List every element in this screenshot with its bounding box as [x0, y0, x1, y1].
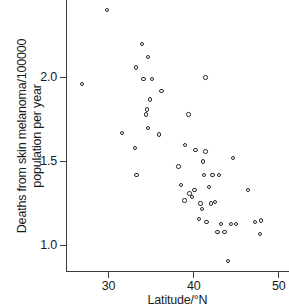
x-axis-line: [66, 271, 289, 272]
data-point: [210, 173, 214, 177]
data-point: [258, 232, 262, 236]
data-point: [253, 220, 257, 224]
data-point: [229, 222, 233, 226]
data-point: [193, 148, 197, 152]
data-point: [204, 220, 208, 224]
x-tick-label: 50: [262, 280, 289, 293]
y-axis-line: [66, 0, 67, 272]
data-point: [197, 217, 201, 221]
data-point: [215, 230, 219, 234]
data-point: [186, 112, 190, 116]
y-tick-mark: [60, 245, 66, 246]
data-point: [201, 159, 205, 163]
data-point: [176, 164, 180, 168]
data-point: [159, 89, 163, 93]
data-point: [144, 112, 148, 116]
data-point: [148, 97, 152, 101]
data-point: [146, 126, 150, 130]
data-point: [203, 75, 207, 79]
data-point: [222, 230, 226, 234]
data-point: [213, 200, 217, 204]
x-tick-mark: [278, 272, 279, 278]
data-point: [246, 188, 250, 192]
y-tick-mark: [60, 77, 66, 78]
x-axis-title: Latitude/°N: [66, 294, 289, 307]
data-point: [219, 222, 223, 226]
data-point: [183, 143, 187, 147]
y-axis-title: Deaths from skin melanoma/100000 populat…: [0, 0, 58, 272]
x-tick-label: 40: [177, 280, 211, 293]
y-axis-title-line-1: Deaths from skin melanoma/100000: [15, 39, 30, 233]
y-axis-title-line-2: population per year: [29, 39, 44, 233]
data-point: [217, 173, 221, 177]
data-point: [105, 8, 109, 12]
data-point: [200, 207, 204, 211]
data-point: [145, 107, 149, 111]
x-tick-label: 30: [92, 280, 126, 293]
data-point: [182, 198, 186, 202]
data-point: [120, 131, 124, 135]
y-tick-mark: [60, 161, 66, 162]
data-point: [190, 195, 194, 199]
data-point: [133, 146, 137, 150]
data-point: [198, 201, 202, 205]
data-point: [179, 183, 183, 187]
data-point: [231, 156, 235, 160]
data-point: [146, 55, 150, 59]
data-point: [140, 42, 144, 46]
data-point: [80, 82, 84, 86]
data-point: [141, 77, 145, 81]
scatter-plot-figure: 1.01.52.0 304050 Deaths from skin melano…: [0, 0, 289, 308]
data-point: [207, 185, 211, 189]
data-point: [150, 77, 154, 81]
data-point: [192, 188, 196, 192]
data-point: [259, 218, 263, 222]
x-tick-mark: [193, 272, 194, 278]
data-point: [134, 65, 138, 69]
data-point: [226, 259, 230, 263]
data-point: [234, 222, 238, 226]
data-point: [202, 173, 206, 177]
data-point: [134, 173, 138, 177]
x-tick-mark: [108, 272, 109, 278]
data-point: [157, 132, 161, 136]
data-point: [203, 149, 207, 153]
